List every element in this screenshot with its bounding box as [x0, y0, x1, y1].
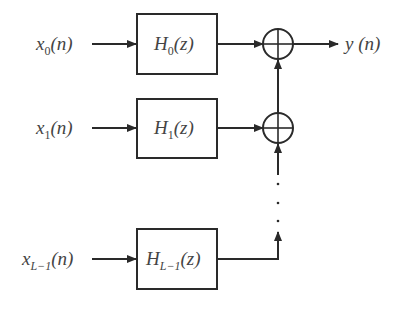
adder-middle: [263, 113, 293, 143]
adder-top: [263, 29, 293, 59]
input-label-x1: x1(n): [35, 117, 73, 142]
output-label-y: y (n): [343, 33, 380, 55]
filter-bank-diagram: x0(n) H0(z) y (n) x1(n) H1(z) xL−1(n) HL…: [0, 0, 404, 315]
input-label-x0: x0(n): [35, 33, 73, 58]
filter-out-arrow-L-1: [217, 232, 278, 259]
filter-label-hL-1: HL−1(z): [145, 248, 201, 273]
filter-label-h1: H1(z): [153, 117, 194, 142]
input-label-xL-1: xL−1(n): [21, 248, 73, 273]
filter-label-h0: H0(z): [153, 33, 194, 58]
ellipsis-dots: [277, 183, 280, 223]
